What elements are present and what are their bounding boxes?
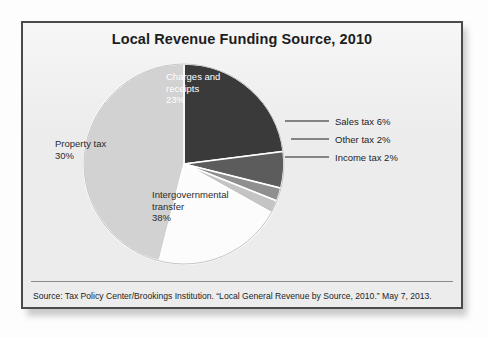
page-title: Local Revenue Funding Source, 2010: [23, 31, 461, 47]
pie-callout-sales-tax: Sales tax 6%: [335, 116, 390, 127]
pie-label-charges-and-receipts: Charges and receipts 23%: [166, 71, 258, 106]
source-note: Source: Tax Policy Center/Brookings Inst…: [33, 291, 453, 301]
pie-callout-income-tax: Income tax 2%: [335, 152, 398, 163]
pie-callout-other-tax: Other tax 2%: [335, 134, 390, 145]
chart-panel: Local Revenue Funding Source, 2010: [23, 23, 461, 307]
pie-label-intergovernmental-transfer: Intergovernmental transfer 38%: [152, 189, 260, 224]
pie-chart-plot-area: Charges and receipts 23% Property tax 30…: [23, 51, 461, 279]
source-divider: [31, 281, 453, 282]
pie-label-property-tax: Property tax 30%: [55, 138, 141, 161]
chart-figure-frame: Local Revenue Funding Source, 2010: [21, 21, 463, 309]
callout-leader-lines: [281, 121, 329, 169]
scanned-page: Local Revenue Funding Source, 2010: [0, 0, 488, 338]
leader-line-sales-tax: [281, 121, 329, 169]
